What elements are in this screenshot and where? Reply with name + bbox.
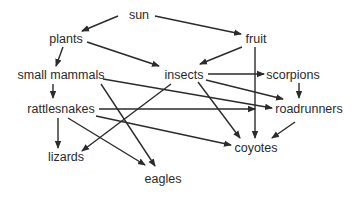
edge-fruit-to-insects: [200, 47, 242, 64]
edge-insects-to-roadrunners: [206, 80, 283, 99]
edge-rattlesnakes-to-coyotes: [96, 116, 231, 145]
node-insects: insects: [165, 69, 204, 82]
edge-sun-to-fruit: [155, 16, 241, 34]
node-coyotes: coyotes: [234, 142, 277, 155]
edge-insects-to-lizards: [82, 84, 171, 151]
node-fruit: fruit: [246, 33, 267, 46]
node-rattlesnakes: rattlesnakes: [27, 103, 94, 116]
edge-plants-to-insects: [87, 42, 159, 66]
edge-small-mammals-to-roadrunners: [103, 79, 272, 108]
node-sun: sun: [129, 9, 149, 22]
edge-layer: [0, 0, 358, 198]
edge-plants-to-small-mammals: [56, 47, 63, 66]
node-small-mammals: small mammals: [18, 69, 105, 82]
node-roadrunners: roadrunners: [275, 103, 342, 116]
node-eagles: eagles: [145, 173, 182, 186]
edge-insects-to-coyotes: [198, 82, 240, 138]
edge-roadrunners-to-coyotes: [272, 122, 295, 138]
node-plants: plants: [49, 33, 82, 46]
edge-small-mammals-to-eagles: [101, 84, 155, 166]
node-scorpions: scorpions: [266, 69, 320, 82]
node-lizards: lizards: [48, 151, 84, 164]
edge-sun-to-plants: [82, 16, 118, 31]
food-web-diagram: sun plants fruit small mammals insects s…: [0, 0, 358, 198]
